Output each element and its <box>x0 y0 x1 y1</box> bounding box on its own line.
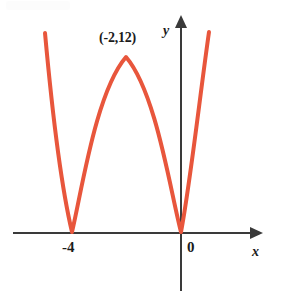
x-axis-label: x <box>252 245 259 259</box>
plot-canvas <box>0 0 281 291</box>
quartic-curve <box>45 32 209 232</box>
y-axis-label: y <box>163 24 169 38</box>
origin-tick-label: 0 <box>187 240 195 255</box>
y-axis-arrowhead <box>175 15 187 28</box>
x-axis-arrowhead <box>250 227 263 239</box>
vertex-point-label: (-2,12) <box>99 31 136 45</box>
x-tick-label-minus-4: -4 <box>62 240 75 255</box>
graph-figure: y x 0 -4 (-2,12) <box>0 0 281 291</box>
